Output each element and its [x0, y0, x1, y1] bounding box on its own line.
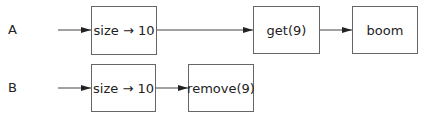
node-a-size: size → 10 — [91, 6, 157, 55]
row-a-label: A — [8, 22, 17, 37]
node-b-size: size → 10 — [91, 64, 156, 112]
node-a-boom: boom — [352, 6, 418, 54]
node-b-remove: remove(9) — [188, 64, 254, 112]
node-a-get: get(9) — [253, 6, 320, 54]
row-b-label: B — [8, 80, 17, 95]
